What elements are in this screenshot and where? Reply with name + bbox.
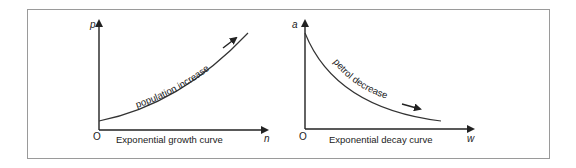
decay-diagram: a w O Exponential decay curve petrol dec… bbox=[292, 19, 475, 145]
origin-label: O bbox=[93, 131, 101, 142]
y-axis-label: p bbox=[89, 19, 96, 30]
x-axis-label: w bbox=[467, 133, 475, 144]
growth-diagram: p n O Exponential growth curve populatio… bbox=[89, 19, 270, 145]
diagram-caption: Exponential growth curve bbox=[116, 134, 223, 145]
decay-curve bbox=[305, 33, 441, 121]
diagram-canvas: p n O Exponential growth curve populatio… bbox=[0, 0, 576, 168]
decrease-arrow-icon bbox=[402, 104, 420, 109]
origin-label: O bbox=[299, 131, 307, 142]
diagram-caption: Exponential decay curve bbox=[329, 134, 433, 145]
x-axis-label: n bbox=[264, 133, 270, 144]
y-axis-label: a bbox=[292, 19, 298, 30]
curve-label: petrol decrease bbox=[331, 56, 389, 100]
curve-label: population increase bbox=[134, 62, 211, 109]
